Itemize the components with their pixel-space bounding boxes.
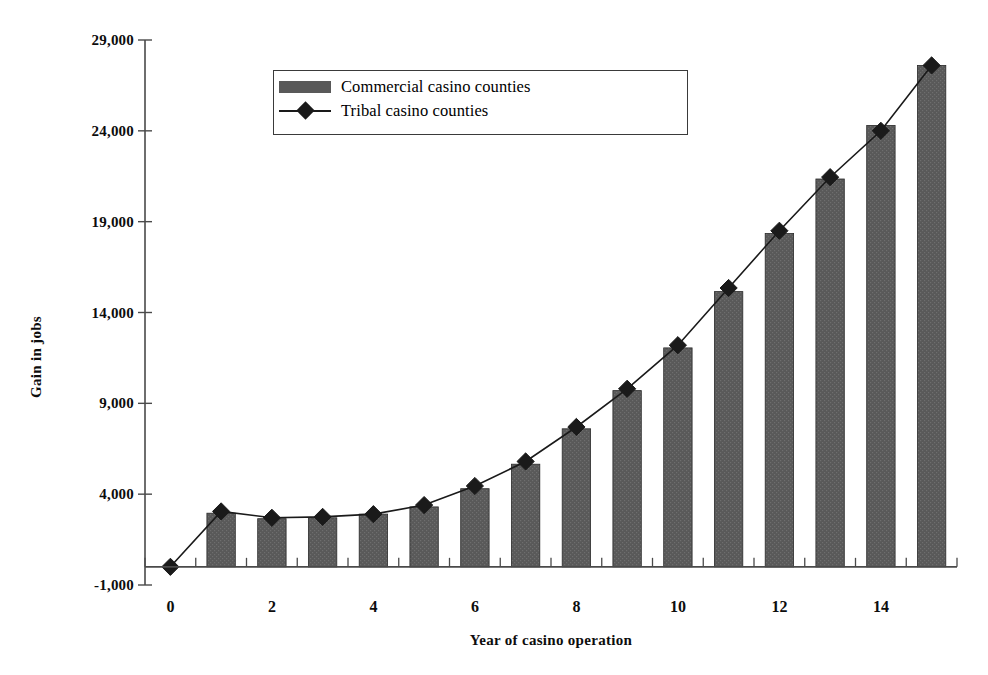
y-tick-label-4: 19,000 [8, 213, 134, 230]
bar-year-9 [613, 391, 641, 567]
x-tick-label-1: 2 [268, 598, 276, 616]
bar-year-8 [562, 429, 590, 567]
y-axis-title: Gain in jobs [28, 316, 45, 398]
chart-legend: Commercial casino counties Tribal casino… [273, 70, 688, 135]
y-tick-label-0: -1,000 [8, 577, 134, 594]
bar-year-5 [410, 507, 438, 567]
y-tick-label-6: 29,000 [8, 32, 134, 49]
x-axis-title: Year of casino operation [470, 632, 632, 649]
y-tick-label-3: 14,000 [8, 304, 134, 321]
x-tick-label-6: 12 [771, 598, 787, 616]
legend-item-tribal: Tribal casino counties [279, 101, 488, 121]
legend-item-commercial: Commercial casino counties [279, 77, 531, 97]
legend-label-commercial: Commercial casino counties [341, 77, 531, 97]
x-tick-label-4: 8 [572, 598, 580, 616]
x-tick-label-3: 6 [471, 598, 479, 616]
legend-line-diamond-icon [279, 104, 331, 118]
x-tick-label-7: 14 [873, 598, 889, 616]
x-tick-label-5: 10 [670, 598, 686, 616]
bar-year-6 [461, 489, 489, 567]
chart-figure: -1,0004,0009,00014,00019,00024,00029,000… [0, 0, 988, 675]
x-tick-label-2: 4 [369, 598, 377, 616]
legend-bar-swatch-icon [279, 81, 331, 93]
bar-year-12 [765, 234, 793, 567]
legend-label-tribal: Tribal casino counties [341, 101, 488, 121]
bar-year-11 [714, 292, 742, 567]
y-tick-label-5: 24,000 [8, 122, 134, 139]
bar-year-13 [816, 179, 844, 567]
bar-year-14 [867, 125, 895, 567]
bar-series [207, 65, 946, 567]
bar-year-7 [511, 464, 539, 567]
bar-year-15 [917, 65, 945, 566]
y-tick-label-1: 4,000 [8, 486, 134, 503]
y-tick-label-2: 9,000 [8, 395, 134, 412]
x-tick-label-0: 0 [166, 598, 174, 616]
bar-year-10 [664, 348, 692, 567]
